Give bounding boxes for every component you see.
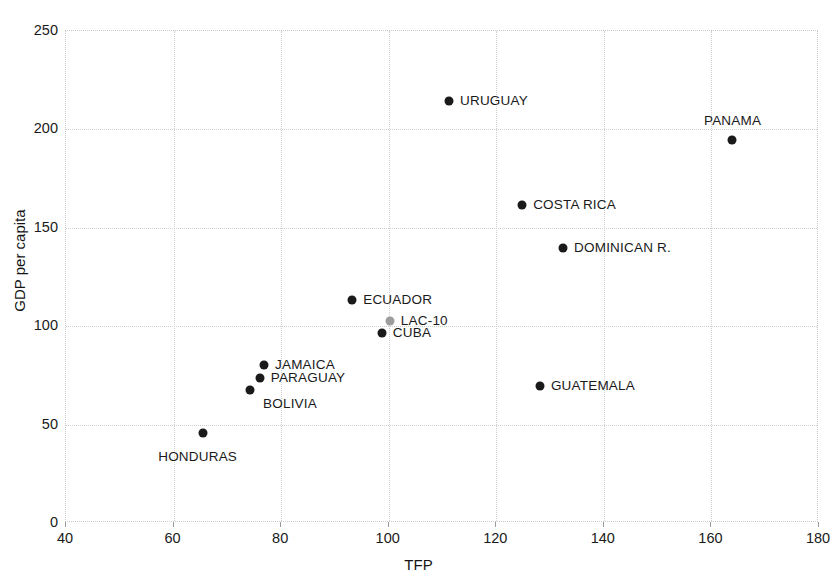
scatter-chart: 050100150200250 406080100120140160180 GD… xyxy=(0,0,837,586)
y-tick-label: 150 xyxy=(34,220,58,235)
data-point-label: COSTA RICA xyxy=(533,198,616,212)
data-point[interactable] xyxy=(727,136,736,145)
data-point[interactable] xyxy=(559,244,568,253)
x-tick-mark xyxy=(495,522,496,527)
x-tick-label: 160 xyxy=(698,531,722,546)
x-tick-label: 140 xyxy=(591,531,615,546)
data-point-label: BOLIVIA xyxy=(263,397,317,411)
x-axis-title: TFP xyxy=(0,556,837,573)
gridline-horizontal xyxy=(66,129,817,130)
x-tick-mark xyxy=(603,522,604,527)
y-tick-label: 0 xyxy=(50,515,58,530)
gridline-horizontal xyxy=(66,228,817,229)
gridline-horizontal xyxy=(66,425,817,426)
data-point[interactable] xyxy=(535,382,544,391)
data-point-label: ECUADOR xyxy=(363,293,432,307)
data-point[interactable] xyxy=(246,386,255,395)
x-tick-mark xyxy=(173,522,174,527)
y-axis-title: GDP per capita xyxy=(11,146,28,376)
data-point-label: HONDURAS xyxy=(158,450,237,464)
gridline-vertical xyxy=(174,31,175,521)
data-point-label: URUGUAY xyxy=(460,94,528,108)
x-tick-label: 40 xyxy=(57,531,73,546)
x-tick-label: 180 xyxy=(806,531,830,546)
x-tick-label: 60 xyxy=(164,531,180,546)
x-tick-label: 120 xyxy=(483,531,507,546)
x-tick-label: 100 xyxy=(376,531,400,546)
gridline-vertical xyxy=(389,31,390,521)
y-tick-label: 100 xyxy=(34,318,58,333)
y-tick-label: 250 xyxy=(34,23,58,38)
data-point[interactable] xyxy=(260,360,269,369)
x-axis-ticks: 406080100120140160180 xyxy=(0,531,837,555)
x-tick-mark xyxy=(280,522,281,527)
y-axis-ticks: 050100150200250 xyxy=(0,0,58,586)
data-point[interactable] xyxy=(377,329,386,338)
data-point-label: PARAGUAY xyxy=(271,371,346,385)
data-point[interactable] xyxy=(518,201,527,210)
gridline-vertical xyxy=(604,31,605,521)
plot-area xyxy=(65,30,818,522)
data-point[interactable] xyxy=(348,295,357,304)
x-tick-mark xyxy=(388,522,389,527)
x-tick-mark xyxy=(65,522,66,527)
x-tick-mark xyxy=(710,522,711,527)
gridline-vertical xyxy=(711,31,712,521)
gridline-vertical xyxy=(281,31,282,521)
data-point-label: GUATEMALA xyxy=(551,379,635,393)
data-point[interactable] xyxy=(199,429,208,438)
data-point-label: PANAMA xyxy=(704,114,761,128)
data-point-label: DOMINICAN R. xyxy=(574,241,671,255)
data-point[interactable] xyxy=(255,374,264,383)
y-tick-label: 200 xyxy=(34,121,58,136)
x-tick-label: 80 xyxy=(272,531,288,546)
x-tick-mark xyxy=(818,522,819,527)
data-point[interactable] xyxy=(445,96,454,105)
data-point-label: CUBA xyxy=(393,326,431,340)
data-point-label: JAMAICA xyxy=(275,358,335,372)
y-tick-label: 50 xyxy=(42,417,58,432)
